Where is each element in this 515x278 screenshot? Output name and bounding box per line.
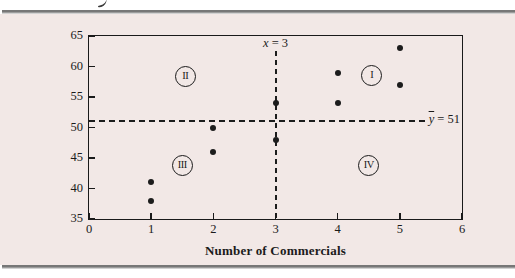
mean-y-value: = 51 bbox=[434, 112, 460, 126]
plot-area: x = 3 y = 51 354045505560650123456IIIIII… bbox=[88, 35, 463, 220]
quadrant-label-iv: IV bbox=[358, 155, 379, 176]
y-axis-tick bbox=[89, 35, 95, 37]
quadrant-label-iii: III bbox=[172, 155, 193, 176]
y-axis-tick-label: 40 bbox=[55, 181, 83, 196]
data-point bbox=[273, 137, 279, 143]
data-point bbox=[335, 70, 341, 76]
quadrant-label-ii: II bbox=[175, 66, 196, 87]
bottom-rule bbox=[2, 265, 515, 269]
y-axis-tick bbox=[89, 157, 95, 159]
data-point bbox=[397, 45, 403, 51]
y-axis-tick-label: 50 bbox=[55, 120, 83, 135]
figure: Sales ($100s) Number of Commercials x = … bbox=[0, 0, 515, 278]
mean-y-line bbox=[89, 120, 425, 122]
data-point bbox=[273, 100, 279, 106]
mean-x-label: x = 3 bbox=[252, 36, 300, 51]
data-point bbox=[397, 82, 403, 88]
y-axis-tick bbox=[89, 127, 95, 129]
data-point bbox=[148, 179, 154, 185]
data-point bbox=[335, 100, 341, 106]
y-axis-tick-label: 65 bbox=[55, 28, 83, 43]
x-axis-tick-label: 3 bbox=[263, 222, 289, 237]
x-axis-tick bbox=[213, 213, 215, 219]
data-point bbox=[148, 198, 154, 204]
x-axis-tick bbox=[461, 213, 463, 219]
x-axis-tick-label: 1 bbox=[138, 222, 164, 237]
y-axis-tick bbox=[89, 188, 95, 190]
x-axis-tick-label: 4 bbox=[325, 222, 351, 237]
y-axis-tick-label: 55 bbox=[55, 89, 83, 104]
quadrant-label-i: I bbox=[361, 65, 382, 86]
x-axis-tick-label: 6 bbox=[449, 222, 475, 237]
x-axis-tick bbox=[337, 213, 339, 219]
x-axis-tick-label: 0 bbox=[76, 222, 102, 237]
mean-x-value: = 3 bbox=[269, 36, 289, 50]
x-axis-title: Number of Commercials bbox=[88, 243, 463, 259]
x-axis-tick bbox=[88, 213, 90, 219]
data-point bbox=[210, 125, 216, 131]
x-axis-tick bbox=[275, 213, 277, 219]
y-axis-tick bbox=[89, 66, 95, 68]
x-axis-tick bbox=[150, 213, 152, 219]
cropped-text-fragment bbox=[96, 0, 108, 8]
figure-background: Sales ($100s) Number of Commercials x = … bbox=[0, 14, 515, 265]
y-axis-tick bbox=[89, 96, 95, 98]
x-axis-tick-label: 5 bbox=[387, 222, 413, 237]
x-axis-tick-label: 2 bbox=[200, 222, 226, 237]
y-axis-tick bbox=[89, 218, 95, 220]
mean-y-label: y = 51 bbox=[429, 112, 460, 127]
mean-x-line bbox=[275, 51, 277, 219]
x-axis-tick bbox=[399, 213, 401, 219]
y-axis-tick-label: 60 bbox=[55, 59, 83, 74]
y-axis-tick-label: 45 bbox=[55, 150, 83, 165]
data-point bbox=[210, 149, 216, 155]
